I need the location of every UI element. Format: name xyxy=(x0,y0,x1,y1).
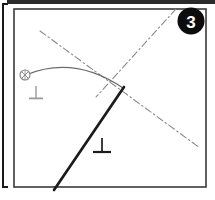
step-number-badge: 3 xyxy=(178,8,205,35)
diagram-canvas: 3 xyxy=(0,0,215,200)
hatched-circle-marker xyxy=(20,70,30,81)
outer-border-top-stub xyxy=(2,3,8,5)
figure-panel: 3 xyxy=(0,0,215,200)
step-badge-label: 3 xyxy=(186,13,195,32)
outer-border-left xyxy=(2,3,4,188)
page-top-band xyxy=(7,0,215,4)
outer-border-bottom-stub xyxy=(2,186,8,188)
